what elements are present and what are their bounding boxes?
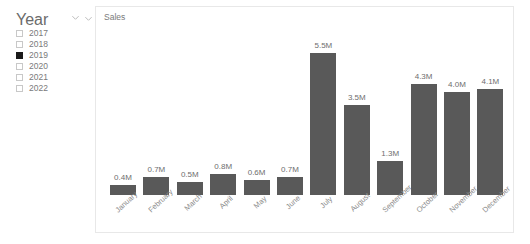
bar-value-label: 0.8M bbox=[205, 162, 241, 171]
year-slicer-list: 201720182019202020212022 bbox=[16, 28, 82, 94]
slicer-item-2022[interactable]: 2022 bbox=[16, 83, 82, 94]
bar-value-label: 0.5M bbox=[172, 170, 208, 179]
bar-chart-plot-area: 0.4MJanuary0.7MFebruary0.5MMarch0.8MApri… bbox=[104, 25, 508, 230]
bar-group: 4.0MNovember bbox=[444, 25, 470, 195]
bar-value-label: 4.1M bbox=[472, 77, 508, 86]
bar-value-label: 1.3M bbox=[372, 149, 408, 158]
slicer-item-2018[interactable]: 2018 bbox=[16, 39, 82, 50]
bar-value-label: 4.0M bbox=[439, 80, 475, 89]
slicer-item-label: 2021 bbox=[29, 72, 48, 83]
checkbox-icon[interactable] bbox=[16, 74, 23, 81]
bar[interactable] bbox=[411, 84, 437, 195]
slicer-item-label: 2017 bbox=[29, 28, 48, 39]
bar-group: 0.6MMay bbox=[244, 25, 270, 195]
checkbox-checked-icon[interactable] bbox=[16, 52, 23, 59]
slicer-item-2021[interactable]: 2021 bbox=[16, 72, 82, 83]
bar-value-label: 4.3M bbox=[406, 72, 442, 81]
checkbox-icon[interactable] bbox=[16, 63, 23, 70]
slicer-item-2019[interactable]: 2019 bbox=[16, 50, 82, 61]
slicer-item-label: 2020 bbox=[29, 61, 48, 72]
bar-value-label: 5.5M bbox=[305, 41, 341, 50]
bar-group: 4.1MDecember bbox=[477, 25, 503, 195]
report-canvas: Year 201720182019202020212022 Sales 0.4M… bbox=[0, 0, 530, 244]
bar-group: 0.8MApril bbox=[210, 25, 236, 195]
year-slicer: Year 201720182019202020212022 bbox=[0, 0, 84, 110]
bar-series: 0.4MJanuary0.7MFebruary0.5MMarch0.8MApri… bbox=[110, 25, 508, 195]
chart-title: Sales bbox=[104, 12, 125, 22]
bar[interactable] bbox=[444, 92, 470, 195]
slicer-item-2017[interactable]: 2017 bbox=[16, 28, 82, 39]
bar-group: 0.7MJune bbox=[277, 25, 303, 195]
checkbox-icon[interactable] bbox=[16, 30, 23, 37]
bar-group: 1.3MSeptember bbox=[377, 25, 403, 195]
bar[interactable] bbox=[477, 89, 503, 195]
bar-value-label: 3.5M bbox=[339, 93, 375, 102]
year-slicer-header: Year bbox=[16, 11, 80, 24]
checkbox-icon[interactable] bbox=[16, 85, 23, 92]
bar-group: 0.4MJanuary bbox=[110, 25, 136, 195]
bar-group: 0.5MMarch bbox=[177, 25, 203, 195]
bar[interactable] bbox=[344, 105, 370, 195]
slicer-item-label: 2022 bbox=[29, 83, 48, 94]
slicer-item-label: 2019 bbox=[29, 50, 48, 61]
bar-group: 3.5MAugust bbox=[344, 25, 370, 195]
bar-value-label: 0.7M bbox=[272, 165, 308, 174]
bar-group: 4.3MOctober bbox=[411, 25, 437, 195]
sales-chart-panel: Sales 0.4MJanuary0.7MFebruary0.5MMarch0.… bbox=[95, 6, 514, 233]
bar-group: 5.5MJuly bbox=[310, 25, 336, 195]
bar-group: 0.7MFebruary bbox=[143, 25, 169, 195]
bar-value-label: 0.7M bbox=[138, 165, 174, 174]
chart-chevron-down-icon[interactable] bbox=[84, 14, 93, 23]
checkbox-icon[interactable] bbox=[16, 41, 23, 48]
bar[interactable] bbox=[310, 53, 336, 195]
slicer-item-label: 2018 bbox=[29, 39, 48, 50]
bar-value-label: 0.4M bbox=[105, 173, 141, 182]
chevron-down-icon[interactable] bbox=[71, 13, 80, 22]
bar-value-label: 0.6M bbox=[239, 168, 275, 177]
slicer-item-2020[interactable]: 2020 bbox=[16, 61, 82, 72]
